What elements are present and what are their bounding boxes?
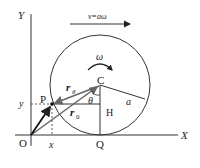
point-p-label: P (40, 93, 46, 105)
velocity-label: v=aω (88, 12, 107, 21)
radius-a-label: a (126, 96, 131, 107)
origin-label: O (19, 137, 27, 149)
op-vector (31, 107, 50, 135)
theta-arc (92, 91, 100, 95)
point-p-dot (50, 102, 54, 106)
h-label: H (106, 107, 113, 118)
theta-label: θ (88, 95, 93, 106)
x-axis-label: X (180, 129, 189, 141)
y-coord-label: y (18, 98, 24, 109)
y-axis-label: Y (18, 9, 26, 21)
foot-q-label: Q (96, 138, 104, 150)
omega-arc (88, 64, 112, 70)
center-label: C (97, 74, 104, 86)
r-theta-label: r (66, 81, 71, 93)
omega-label: ω (96, 51, 103, 62)
rolling-circle-diagram: Y X O v=aω ω C P Q H θ a x y r θ r 0 (0, 0, 200, 168)
r0-label: r (70, 106, 75, 118)
r0-subscript: 0 (76, 113, 80, 121)
r-theta-subscript: θ (72, 88, 76, 96)
radius-line (100, 85, 145, 99)
x-coord-label: x (48, 139, 54, 150)
